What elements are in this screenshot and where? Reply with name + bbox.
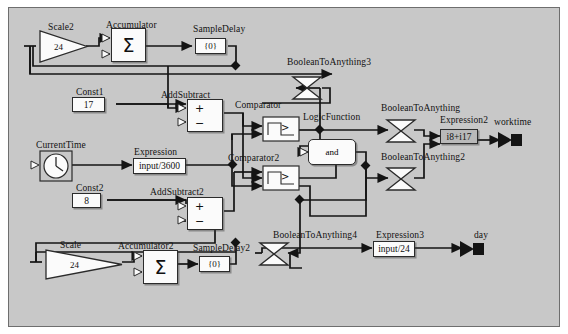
logicfunction-block[interactable]: and xyxy=(308,139,356,165)
booleantoanything4-block[interactable] xyxy=(258,241,290,267)
expression3-block[interactable]: input/24 xyxy=(373,241,415,257)
addsubtract2-label: AddSubtract2 xyxy=(150,187,204,197)
scale2-block[interactable] xyxy=(38,29,90,65)
comparator2-label: Comparator2 xyxy=(228,153,279,163)
worktime-output-port[interactable] xyxy=(498,131,524,149)
booleantoanything2-block[interactable] xyxy=(385,166,417,192)
sampledelay-value: {0} xyxy=(196,39,225,53)
sampledelay-block[interactable]: {0} xyxy=(195,38,226,54)
expression3-label: Expression3 xyxy=(376,230,424,240)
day-output-label: day xyxy=(474,230,488,240)
diagram-canvas: Scale2 24 Accumulator Σ SampleDelay {0} … xyxy=(0,0,568,334)
accumulator2-value: Σ xyxy=(144,251,177,283)
sampledelay2-label: SampleDelay2 xyxy=(193,243,250,253)
addsubtract-input-ports xyxy=(177,103,189,129)
const2-label: Const2 xyxy=(76,183,104,193)
const1-value: 17 xyxy=(73,98,104,111)
currenttime-input-port xyxy=(30,160,41,172)
scale-value: 24 xyxy=(70,260,79,270)
worktime-output-label: worktime xyxy=(494,117,531,127)
scale2-value: 24 xyxy=(54,42,63,52)
sampledelay2-block[interactable]: {0} xyxy=(199,256,230,272)
booleantoanything3-label: BooleanToAnything3 xyxy=(287,57,371,67)
booleantoanything3-block[interactable] xyxy=(291,75,323,101)
sampledelay2-value: {0} xyxy=(200,257,229,271)
comparator-value: > xyxy=(281,122,289,133)
accumulator-input-ports xyxy=(101,33,113,61)
expression-block[interactable]: input/3600 xyxy=(133,158,186,174)
booleantoanything-block[interactable] xyxy=(385,118,417,144)
addsubtract2-block[interactable]: + − xyxy=(187,197,223,230)
logicfunction-input-port xyxy=(299,147,310,159)
addsubtract-block[interactable]: + − xyxy=(187,99,223,132)
addsubtract2-plus-sign: + xyxy=(195,200,204,213)
expression-label: Expression xyxy=(134,147,177,157)
sampledelay-label: SampleDelay xyxy=(193,24,245,34)
const1-block[interactable]: 17 xyxy=(72,97,105,112)
addsubtract2-input-ports xyxy=(177,201,189,227)
expression-value: input/3600 xyxy=(134,159,185,173)
addsubtract-plus-sign: + xyxy=(195,102,204,115)
accumulator-value: Σ xyxy=(112,29,145,61)
day-output-port[interactable] xyxy=(460,240,486,258)
accumulator2-input-ports xyxy=(133,251,145,279)
booleantoanything4-label: BooleanToAnything4 xyxy=(273,230,357,240)
const1-label: Const1 xyxy=(76,87,104,97)
currenttime-block[interactable] xyxy=(39,150,73,182)
expression2-block[interactable]: i8+i17 xyxy=(440,129,478,144)
logicfunction-label: LogicFunction xyxy=(303,112,360,122)
scale-block[interactable] xyxy=(44,248,124,282)
addsubtract2-minus-sign: − xyxy=(195,215,204,228)
accumulator2-block[interactable]: Σ xyxy=(143,250,178,284)
const2-value: 8 xyxy=(73,194,100,207)
comparator2-value: > xyxy=(281,171,289,182)
expression2-label: Expression2 xyxy=(440,115,488,125)
currenttime-label: CurrentTime xyxy=(36,140,86,150)
accumulator-block[interactable]: Σ xyxy=(111,28,146,62)
expression3-value: input/24 xyxy=(374,242,414,256)
const2-block[interactable]: 8 xyxy=(72,193,101,208)
addsubtract-minus-sign: − xyxy=(195,117,204,130)
booleantoanything2-label: BooleanToAnything2 xyxy=(381,152,465,162)
booleantoanything-label: BooleanToAnything xyxy=(381,103,460,113)
comparator-label: Comparator xyxy=(235,100,281,110)
logicfunction-value: and xyxy=(309,140,355,164)
expression2-value: i8+i17 xyxy=(441,130,477,143)
